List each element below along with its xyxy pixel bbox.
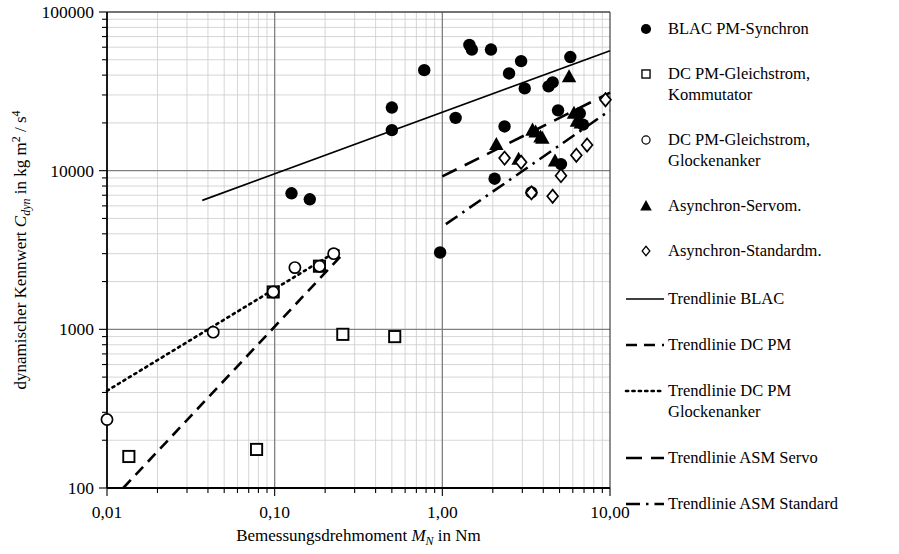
legend-label-tl-blac: Trendlinie BLAC: [668, 289, 784, 308]
y-axis-title: dynamischer Kennwert Cdyn in kg m2 / s4: [9, 110, 33, 389]
marker-filled-circle: [304, 193, 316, 205]
legend-label-asm-servo: Asynchron-Servom.: [668, 196, 801, 215]
marker-filled-circle: [418, 64, 430, 76]
y-tick-label: 10000: [50, 161, 94, 181]
marker-open-circle: [268, 286, 279, 297]
x-tick-label: 1,00: [427, 502, 458, 522]
marker-filled-circle: [449, 112, 461, 124]
marker-open-square: [337, 329, 348, 340]
marker-open-square: [389, 331, 400, 342]
marker-filled-circle: [546, 76, 558, 88]
marker-open-square: [251, 444, 262, 455]
y-tick-label: 100: [68, 478, 95, 498]
marker-filled-circle: [434, 246, 446, 258]
legend-label2-dcpm-glocke: Glockenanker: [668, 151, 761, 170]
legend-item-asm-std[interactable]: Asynchron-Standardm.: [642, 241, 821, 260]
chart-figure: 0,010,101,0010,00 100100010000100000 Bem…: [0, 0, 899, 554]
marker-open-circle: [314, 261, 325, 272]
marker-open-circle: [328, 248, 339, 259]
marker-open-square: [642, 70, 650, 78]
scatter-plot-svg: 0,010,101,0010,00 100100010000100000 Bem…: [0, 0, 899, 554]
marker-filled-circle: [466, 43, 478, 55]
marker-filled-circle: [519, 82, 531, 94]
x-tick-label: 0,01: [92, 502, 123, 522]
marker-filled-circle: [641, 24, 651, 34]
y-tick-label: 1000: [59, 319, 94, 339]
plot-background: [0, 0, 899, 554]
marker-open-circle: [289, 262, 300, 273]
marker-filled-circle: [485, 43, 497, 55]
marker-filled-circle: [386, 101, 398, 113]
marker-filled-circle: [285, 187, 297, 199]
marker-open-circle: [642, 136, 650, 144]
marker-filled-circle: [503, 67, 515, 79]
legend-label2-tl-dcpm-glocke: Glockenanker: [668, 402, 761, 421]
marker-filled-circle: [552, 104, 564, 116]
x-tick-label: 10,00: [590, 502, 630, 522]
legend-label-blac: BLAC PM-Synchron: [668, 19, 809, 38]
marker-filled-circle: [498, 120, 510, 132]
x-axis-title: Bemessungsdrehmoment MN in Nm: [236, 526, 481, 548]
marker-filled-circle: [515, 55, 527, 67]
marker-filled-circle: [564, 51, 576, 63]
marker-filled-circle: [386, 124, 398, 136]
legend-label-tl-dcpm: Trendlinie DC PM: [668, 335, 791, 354]
x-tick-label: 0,10: [259, 502, 290, 522]
marker-open-circle: [208, 327, 219, 338]
legend-label-tl-asm-std: Trendlinie ASM Standard: [668, 494, 839, 513]
marker-filled-circle: [488, 172, 500, 184]
y-tick-label: 100000: [42, 2, 95, 22]
legend-label-dcpm-glocke: DC PM-Gleichstrom,: [668, 130, 810, 149]
legend-label2-dcpm: Kommutator: [668, 85, 753, 104]
legend-label-asm-std: Asynchron-Standardm.: [668, 241, 822, 260]
marker-open-square: [123, 451, 134, 462]
legend-label-tl-asm-servo: Trendlinie ASM Servo: [668, 448, 818, 467]
legend-label-dcpm: DC PM-Gleichstrom,: [668, 64, 810, 83]
legend-label-tl-dcpm-glocke: Trendlinie DC PM: [668, 381, 791, 400]
marker-open-circle: [101, 414, 112, 425]
